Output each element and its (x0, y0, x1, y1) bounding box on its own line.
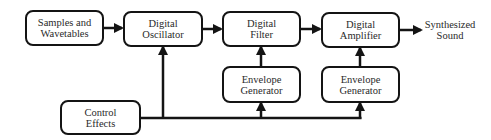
block-label-line2: Amplifier (340, 30, 381, 41)
block-label-line1: Digital (247, 18, 276, 29)
output-label-line2: Sound (420, 30, 480, 41)
synthesizer-block-diagram: Samples and Wavetables Digital Oscillato… (0, 0, 491, 140)
block-label-line1: Digital (346, 19, 375, 30)
block-label-line1: Envelope (341, 74, 381, 85)
block-label-line1: Samples and (38, 17, 91, 28)
block-label-line2: Generator (340, 85, 382, 96)
block-label-line2: Wavetables (40, 28, 88, 39)
digital-filter-block: Digital Filter (222, 11, 301, 47)
output-label-line1: Synthesized (420, 19, 480, 30)
envelope-generator-amplifier-block: Envelope Generator (321, 66, 400, 103)
control-effects-block: Control Effects (60, 100, 141, 135)
block-label-line2: Generator (241, 85, 283, 96)
block-label-line1: Envelope (242, 74, 282, 85)
block-label-line2: Oscillator (142, 29, 183, 40)
envelope-generator-filter-block: Envelope Generator (222, 66, 301, 103)
digital-oscillator-block: Digital Oscillator (123, 11, 203, 47)
samples-and-wavetables-block: Samples and Wavetables (25, 10, 104, 46)
digital-amplifier-block: Digital Amplifier (321, 12, 400, 48)
block-label-line2: Effects (86, 118, 116, 129)
block-label-line1: Control (84, 107, 116, 118)
block-label-line1: Digital (148, 18, 177, 29)
synthesized-sound-output-label: Synthesized Sound (420, 19, 480, 41)
block-label-line2: Filter (250, 29, 273, 40)
